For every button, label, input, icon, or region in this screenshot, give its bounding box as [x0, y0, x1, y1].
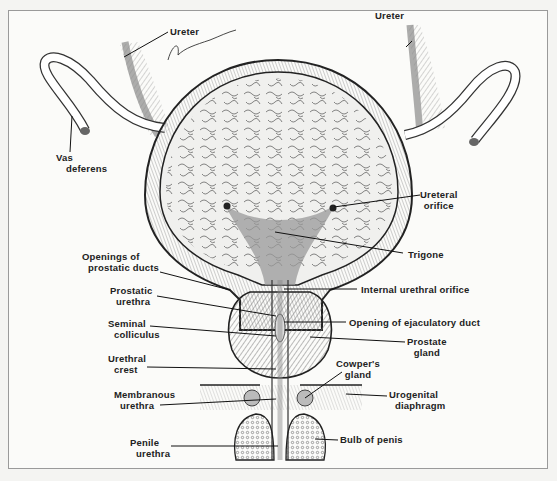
label-trigone: Trigone	[408, 249, 444, 260]
bladder-illustration	[0, 0, 557, 481]
urogenital-diaphragm-shape	[200, 385, 362, 410]
label-internal-urethral-orifice: Internal urethral orifice	[361, 284, 469, 295]
label-openings-of-prostatic-ducts: Openings of prostatic ducts	[82, 251, 159, 273]
label-ureter-left: Ureter	[170, 26, 199, 37]
label-bulb-of-penis: Bulb of penis	[340, 434, 403, 445]
label-seminal-colliculus: Seminal colliculus	[108, 318, 160, 340]
label-membranous-urethra: Membranous urethra	[114, 389, 175, 411]
label-urogenital-diaphragm: Urogenital diaphragm	[389, 389, 445, 411]
label-ureter-right: Ureter	[375, 10, 404, 21]
cowpers-gland-left	[244, 390, 260, 406]
label-opening-of-ejaculatory-duct: Opening of ejaculatory duct	[349, 317, 480, 328]
label-urethral-crest: Urethral crest	[108, 353, 146, 375]
ureteral-orifice-left	[224, 203, 231, 210]
label-prostate-gland: Prostate gland	[407, 336, 447, 358]
label-ureteral-orifice: Ureteral orifice	[420, 189, 458, 211]
label-penile-urethra: Penile urethra	[130, 437, 170, 459]
label-cowpers-gland: Cowper's gland	[336, 358, 380, 380]
label-vas-deferens: Vas deferens	[56, 152, 107, 174]
label-prostatic-urethra: Prostatic urethra	[110, 285, 152, 307]
ureteral-orifice-right	[330, 205, 337, 212]
bulb-of-penis-shape	[235, 414, 274, 460]
